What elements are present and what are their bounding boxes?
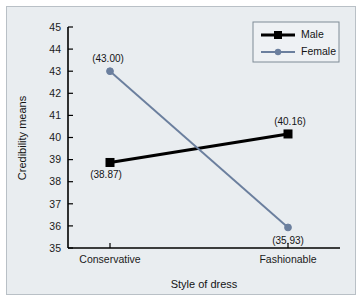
data-point-marker <box>284 130 292 138</box>
x-tick-label: Fashionable <box>259 253 316 265</box>
data-point-marker <box>107 68 114 75</box>
y-tick-label: 43 <box>49 65 61 77</box>
legend-label-male: Male <box>301 28 324 40</box>
data-point-marker <box>285 224 292 231</box>
y-tick-label: 37 <box>49 198 61 210</box>
y-tick-label: 38 <box>49 175 61 187</box>
data-point-marker <box>106 158 114 166</box>
line-chart-svg: 3536373839404142434445 ConservativeFashi… <box>0 0 364 303</box>
data-point-label: (43.00) <box>92 53 124 64</box>
legend-label-female: Female <box>301 45 336 57</box>
legend-marker <box>274 31 282 39</box>
y-axis-title: Credibility means <box>16 95 28 180</box>
chart-legend: MaleFemale <box>253 22 339 62</box>
legend-marker <box>275 49 281 55</box>
y-tick-label: 44 <box>49 43 61 55</box>
data-point-label: (40.16) <box>274 116 306 127</box>
figure-container: 3536373839404142434445 ConservativeFashi… <box>0 0 364 303</box>
y-tick-label: 39 <box>49 153 61 165</box>
x-tick-label: Conservative <box>79 253 140 265</box>
x-axis-title: Style of dress <box>171 278 238 290</box>
data-point-label: (35.93) <box>272 235 304 246</box>
chart-plot-area: 3536373839404142434445 ConservativeFashi… <box>0 0 364 303</box>
y-tick-label: 41 <box>49 109 61 121</box>
data-point-label: (38.87) <box>90 169 122 180</box>
y-tick-label: 40 <box>49 131 61 143</box>
series-line-female <box>110 71 288 227</box>
y-tick-label: 36 <box>49 220 61 232</box>
y-tick-label: 35 <box>49 242 61 254</box>
y-tick-label: 42 <box>49 87 61 99</box>
series-layer <box>106 68 292 231</box>
y-axis-ticks: 3536373839404142434445 <box>49 21 73 254</box>
y-tick-label: 45 <box>49 21 61 33</box>
